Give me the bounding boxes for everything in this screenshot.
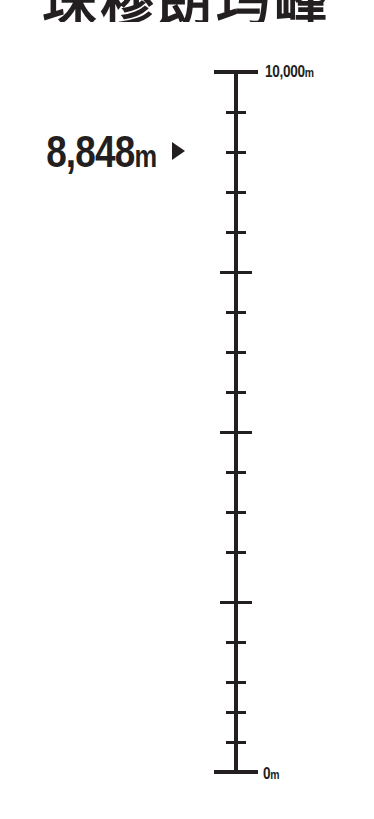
axis-label-bottom-unit: m <box>270 767 279 782</box>
axis-tick-minor <box>226 511 246 514</box>
axis-tick-minor <box>226 151 246 154</box>
axis-tick-minor <box>226 681 246 684</box>
everest-height-value: 8,848m <box>46 129 156 174</box>
everest-height-number: 8,848 <box>46 126 134 177</box>
axis-tick-minor <box>226 351 246 354</box>
altitude-scale: 10,000m 0m 8,848m <box>0 0 374 819</box>
axis-tick-minor <box>226 231 246 234</box>
axis-tick-minor <box>226 641 246 644</box>
axis-vertical-line <box>234 72 238 774</box>
everest-height-callout: 8,848m <box>22 126 202 176</box>
axis-tick-cap-top <box>214 70 258 74</box>
axis-tick-minor <box>226 311 246 314</box>
axis-tick-major <box>220 601 252 604</box>
axis-label-top: 10,000m <box>265 62 314 82</box>
axis-label-bottom-value: 0 <box>263 764 270 783</box>
axis-label-top-value: 10,000 <box>265 62 305 81</box>
axis-label-top-unit: m <box>305 65 314 80</box>
axis-tick-minor <box>226 191 246 194</box>
everest-height-unit: m <box>134 139 156 174</box>
axis-tick-minor <box>226 711 246 714</box>
axis-tick-major <box>220 431 252 434</box>
axis-tick-minor <box>226 111 246 114</box>
axis-tick-minor <box>226 741 246 744</box>
right-triangle-arrow-icon <box>172 142 185 160</box>
axis-tick-minor <box>226 471 246 474</box>
axis-tick-cap-bottom <box>214 770 258 774</box>
axis-tick-minor <box>226 551 246 554</box>
axis-tick-major <box>220 271 252 274</box>
axis-tick-minor <box>226 391 246 394</box>
axis-label-bottom: 0m <box>263 764 279 784</box>
